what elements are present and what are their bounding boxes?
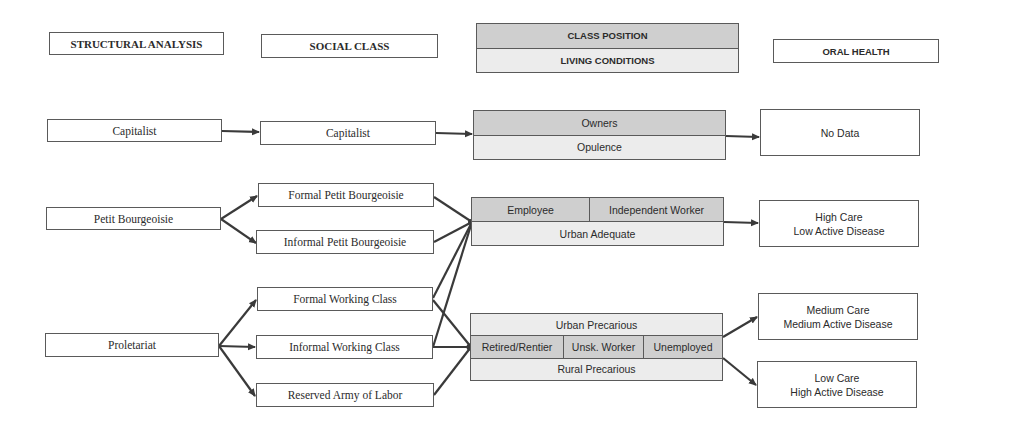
header-class-position: CLASS POSITION: [477, 24, 738, 48]
oral-health-no-data: No Data: [760, 109, 920, 156]
position-unemployed: Unemployed: [643, 336, 722, 357]
position-independent-worker: Independent Worker: [589, 198, 723, 221]
oral-health-medium-care: Medium Care Medium Active Disease: [758, 293, 918, 340]
header-social-class: SOCIAL CLASS: [261, 34, 438, 58]
oral-health-high-care: High Care Low Active Disease: [759, 200, 919, 247]
living-urban-precarious: Urban Precarious: [471, 314, 722, 335]
structural-capitalist: Capitalist: [47, 119, 222, 142]
living-urban-adequate: Urban Adequate: [472, 221, 723, 245]
oral-health-low-care: Low Care High Active Disease: [757, 361, 917, 408]
position-unskilled-worker: Unsk. Worker: [563, 336, 643, 357]
social-class-formal-petit-bourgeoisie: Formal Petit Bourgeoisie: [258, 183, 434, 207]
position-owners: Owners: [474, 111, 725, 135]
positions-row-precarious: Retired/Rentier Unsk. Worker Unemployed: [471, 335, 722, 357]
class-position-urban-adequate: Employee Independent Worker Urban Adequa…: [471, 197, 724, 246]
structural-petit-bourgeoisie: Petit Bourgeoisie: [46, 207, 221, 230]
social-class-informal-working-class: Informal Working Class: [256, 335, 433, 359]
class-position-owners: Owners Opulence: [473, 110, 726, 160]
oral-health-medium-care-line-2: Medium Active Disease: [783, 317, 892, 331]
oral-health-low-care-line-2: High Active Disease: [790, 385, 883, 399]
living-rural-precarious: Rural Precarious: [471, 358, 722, 380]
positions-row-adequate: Employee Independent Worker: [472, 198, 723, 221]
position-retired-rentier: Retired/Rentier: [471, 336, 563, 357]
oral-health-medium-care-line-1: Medium Care: [806, 303, 869, 317]
header-class-position-living-conditions: CLASS POSITION LIVING CONDITIONS: [476, 23, 739, 73]
living-opulence: Opulence: [474, 135, 725, 160]
oral-health-no-data-line: No Data: [821, 126, 860, 140]
header-structural-analysis: STRUCTURAL ANALYSIS: [49, 32, 224, 55]
structural-proletariat: Proletariat: [45, 333, 219, 357]
oral-health-high-care-line-2: Low Active Disease: [793, 224, 884, 238]
social-class-capitalist: Capitalist: [260, 121, 436, 145]
class-position-precarious: Urban Precarious Retired/Rentier Unsk. W…: [470, 313, 723, 381]
oral-health-low-care-line-1: Low Care: [815, 371, 860, 385]
header-living-conditions: LIVING CONDITIONS: [477, 48, 738, 73]
header-oral-health: ORAL HEALTH: [773, 39, 939, 63]
oral-health-high-care-line-1: High Care: [815, 210, 862, 224]
position-employee: Employee: [472, 198, 589, 221]
social-class-reserved-army-of-labor: Reserved Army of Labor: [256, 383, 434, 407]
social-class-formal-working-class: Formal Working Class: [257, 287, 433, 311]
social-class-informal-petit-bourgeoisie: Informal Petit Bourgeoisie: [256, 230, 434, 254]
